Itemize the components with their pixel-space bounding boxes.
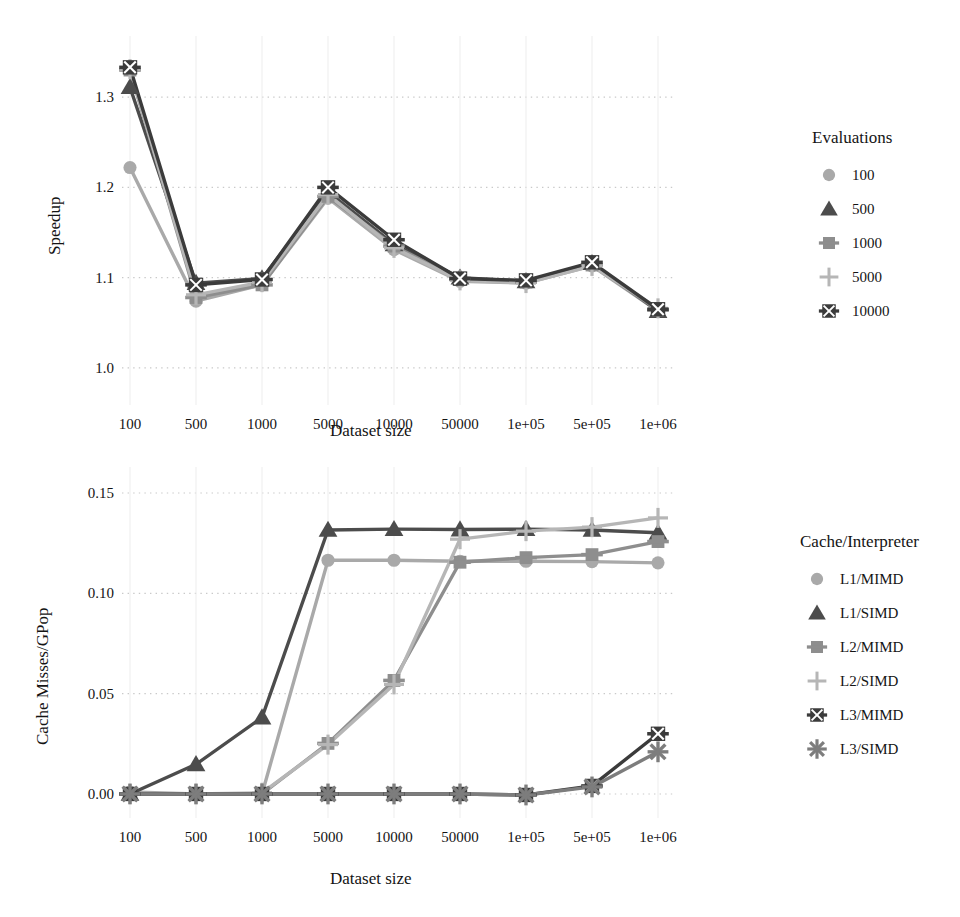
y-tick-label: 1.3 bbox=[95, 89, 114, 105]
legend-item-label: 5000 bbox=[852, 269, 882, 286]
legend-item-label: L2/MIMD bbox=[840, 639, 903, 656]
data-point-plus bbox=[450, 529, 470, 549]
x-tick-label: 5e+05 bbox=[573, 829, 611, 845]
legend-item-100[interactable]: 100 bbox=[812, 158, 892, 192]
legend-item-l3-simd[interactable]: L3/SIMD bbox=[800, 732, 919, 766]
legend-marker-star-icon bbox=[800, 734, 834, 764]
legend-marker-square-x-icon bbox=[800, 700, 834, 730]
data-point-triangle bbox=[808, 604, 826, 619]
data-point-star bbox=[450, 784, 471, 805]
x-tick-label: 50000 bbox=[441, 829, 479, 845]
x-tick-label: 1e+06 bbox=[639, 416, 677, 432]
data-point-circle bbox=[811, 573, 823, 585]
legend-item-l2-mimd[interactable]: L2/MIMD bbox=[800, 630, 919, 664]
legend-title-cache-interpreter: Cache/Interpreter bbox=[800, 532, 919, 552]
x-tick-label: 5e+05 bbox=[573, 416, 611, 432]
data-point-plus bbox=[820, 268, 839, 287]
legend-item-label: 10000 bbox=[852, 303, 890, 320]
evaluations-legend-rows: 1005001000500010000 bbox=[812, 158, 892, 328]
data-point-circle bbox=[387, 554, 400, 567]
data-point-square bbox=[581, 548, 603, 561]
data-point-square-x bbox=[807, 708, 827, 722]
legend-item-1000[interactable]: 1000 bbox=[812, 226, 892, 260]
data-point-square bbox=[807, 641, 827, 653]
data-point-star bbox=[516, 785, 537, 806]
x-tick-label: 10000 bbox=[375, 829, 413, 845]
legend-item-10000[interactable]: 10000 bbox=[812, 294, 892, 328]
speedup-y-axis-title: Speedup bbox=[45, 196, 65, 255]
y-tick-label: 0.10 bbox=[88, 585, 114, 601]
data-point-square-x bbox=[119, 60, 141, 74]
legend-marker-triangle-icon bbox=[812, 194, 846, 224]
legend-item-label: L3/MIMD bbox=[840, 707, 903, 724]
cache-interpreter-legend: Cache/Interpreter L1/MIMDL1/SIMDL2/MIMDL… bbox=[800, 532, 919, 766]
data-point-star bbox=[648, 741, 669, 762]
data-point-star bbox=[582, 777, 603, 798]
legend-item-l3-mimd[interactable]: L3/MIMD bbox=[800, 698, 919, 732]
speedup-x-axis-title: Dataset size bbox=[330, 421, 412, 441]
cache-interpreter-legend-rows: L1/MIMDL1/SIMDL2/MIMDL2/SIMDL3/MIMDL3/SI… bbox=[800, 562, 919, 766]
x-tick-label: 500 bbox=[185, 416, 208, 432]
legend-title-evaluations: Evaluations bbox=[812, 128, 892, 148]
cache-misses-panel: 0.000.050.100.15100500100050001000050000… bbox=[0, 455, 800, 917]
x-tick-label: 1e+06 bbox=[639, 829, 677, 845]
data-point-square bbox=[819, 237, 839, 249]
x-tick-label: 100 bbox=[119, 829, 142, 845]
evaluations-legend: Evaluations 1005001000500010000 bbox=[812, 128, 892, 328]
legend-item-500[interactable]: 500 bbox=[812, 192, 892, 226]
data-point-star bbox=[384, 784, 405, 805]
data-point-square-x bbox=[819, 304, 839, 318]
figure-root: 1.01.11.21.31005001000500010000500001e+0… bbox=[0, 0, 960, 917]
legend-marker-square-x-icon bbox=[812, 296, 846, 326]
x-tick-label: 1e+05 bbox=[507, 416, 545, 432]
legend-item-label: L1/SIMD bbox=[840, 605, 898, 622]
legend-item-label: 500 bbox=[852, 201, 875, 218]
legend-item-label: 1000 bbox=[852, 235, 882, 252]
y-tick-label: 0.15 bbox=[88, 485, 114, 501]
y-tick-label: 1.0 bbox=[95, 360, 114, 376]
legend-item-l1-mimd[interactable]: L1/MIMD bbox=[800, 562, 919, 596]
legend-item-label: L3/SIMD bbox=[840, 741, 898, 758]
x-tick-label: 100 bbox=[119, 416, 142, 432]
x-tick-label: 1000 bbox=[247, 829, 277, 845]
data-point-circle bbox=[823, 169, 835, 181]
legend-marker-plus-icon bbox=[812, 262, 846, 292]
x-tick-label: 500 bbox=[185, 829, 208, 845]
data-point-circle bbox=[651, 556, 664, 569]
legend-item-label: 100 bbox=[852, 167, 875, 184]
legend-item-label: L1/MIMD bbox=[840, 571, 903, 588]
x-tick-label: 1000 bbox=[247, 416, 277, 432]
legend-item-l1-simd[interactable]: L1/SIMD bbox=[800, 596, 919, 630]
legend-item-l2-simd[interactable]: L2/SIMD bbox=[800, 664, 919, 698]
data-point-star bbox=[807, 739, 827, 759]
speedup-plot-svg: 1.01.11.21.31005001000500010000500001e+0… bbox=[0, 0, 800, 450]
x-tick-label: 1e+05 bbox=[507, 829, 545, 845]
data-point-plus bbox=[648, 508, 668, 528]
x-tick-label: 50000 bbox=[441, 416, 479, 432]
legend-marker-square-icon bbox=[800, 632, 834, 662]
cache-x-axis-title: Dataset size bbox=[330, 869, 412, 889]
cache-misses-plot-svg: 0.000.050.100.15100500100050001000050000… bbox=[0, 455, 800, 917]
y-tick-label: 1.1 bbox=[95, 270, 114, 286]
data-point-star bbox=[252, 784, 273, 805]
data-point-circle bbox=[123, 161, 136, 174]
y-tick-label: 0.00 bbox=[88, 786, 114, 802]
legend-marker-circle-icon bbox=[812, 160, 846, 190]
data-point-triangle bbox=[820, 200, 838, 215]
data-point-star bbox=[318, 784, 339, 805]
legend-marker-triangle-icon bbox=[800, 598, 834, 628]
y-tick-label: 1.2 bbox=[95, 179, 114, 195]
legend-item-5000[interactable]: 5000 bbox=[812, 260, 892, 294]
y-tick-label: 0.05 bbox=[88, 686, 114, 702]
legend-item-label: L2/SIMD bbox=[840, 673, 898, 690]
data-point-star bbox=[186, 784, 207, 805]
cache-y-axis-title: Cache Misses/GPop bbox=[33, 608, 53, 745]
legend-marker-square-icon bbox=[812, 228, 846, 258]
x-tick-label: 5000 bbox=[313, 829, 343, 845]
data-point-star bbox=[120, 784, 141, 805]
data-point-triangle bbox=[253, 708, 272, 724]
legend-marker-plus-icon bbox=[800, 666, 834, 696]
legend-marker-circle-icon bbox=[800, 564, 834, 594]
data-point-triangle bbox=[187, 755, 206, 771]
data-point-plus bbox=[516, 521, 536, 541]
